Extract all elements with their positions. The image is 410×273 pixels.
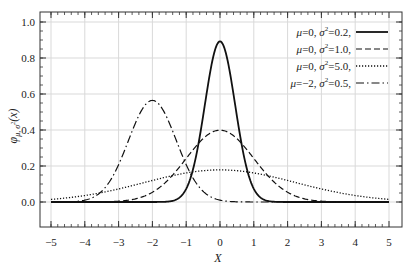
x-tick-label: 1 [251,236,257,248]
y-tick-label: 0.2 [21,160,35,172]
x-axis-label: X [213,251,222,265]
legend: μ=0, σ2=0.2,μ=0, σ2=1.0,μ=0, σ2=5.0,μ=−2… [289,25,388,89]
legend-label: μ=−2, σ2=0.5, [289,76,351,89]
y-tick-label: 0.8 [21,52,35,64]
x-tick-label: −1 [180,236,192,248]
x-tick-label: 0 [217,236,223,248]
x-tick-label: −4 [79,236,91,248]
normal-distribution-chart: −5−4−3−2−1012345 0.00.20.40.60.81.0 X φμ… [0,0,410,273]
x-tick-labels: −5−4−3−2−1012345 [45,236,392,248]
x-tick-label: −5 [45,236,57,248]
y-tick-label: 0.0 [21,196,35,208]
x-tick-label: −3 [113,236,125,248]
y-axis-label: φμ, σ2(x) [6,109,22,144]
legend-label: μ=0, σ2=5.0, [296,59,352,72]
y-tick-label: 0.6 [21,88,35,100]
y-tick-labels: 0.00.20.40.60.81.0 [21,16,35,208]
x-tick-label: 3 [319,236,325,248]
x-tick-label: 4 [352,236,358,248]
legend-label: μ=0, σ2=0.2, [296,25,352,38]
x-tick-label: 5 [386,236,392,248]
x-tick-label: −2 [147,236,159,248]
x-tick-label: 2 [285,236,291,248]
y-tick-label: 1.0 [21,16,35,28]
y-tick-label: 0.4 [21,124,35,136]
legend-label: μ=0, σ2=1.0, [296,42,352,55]
